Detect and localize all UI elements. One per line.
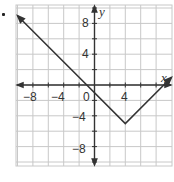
x-tick-label-4: 4 — [121, 90, 128, 104]
coordinate-plane: y x −8 −4 0 4 8 4 −4 −8 — [0, 0, 174, 182]
y-tick-label-8: 8 — [82, 16, 89, 30]
y-axis-label: y — [97, 4, 105, 19]
x-tick-label-neg8: −8 — [23, 90, 37, 104]
y-tick-label-4: 4 — [82, 47, 89, 61]
y-tick-label-neg8: −8 — [72, 142, 86, 156]
axes — [17, 6, 171, 165]
x-tick-label-neg4: −4 — [51, 90, 65, 104]
x-axis-label: x — [160, 70, 167, 85]
origin-label: 0 — [83, 90, 90, 104]
y-tick-label-neg4: −4 — [72, 110, 86, 124]
